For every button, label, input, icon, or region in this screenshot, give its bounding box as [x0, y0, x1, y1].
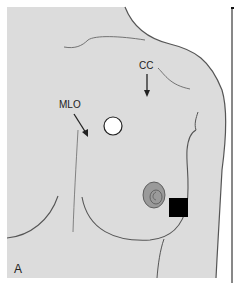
mlo-label: MLO — [59, 100, 81, 110]
torso-shape — [7, 7, 226, 278]
cc-label: CC — [139, 61, 153, 71]
diagram-illustration — [0, 0, 234, 283]
breast-diagram: CC MLO A — [0, 0, 234, 283]
panel-label: A — [14, 263, 22, 275]
square-marker — [169, 198, 188, 217]
circle-marker — [104, 117, 122, 135]
